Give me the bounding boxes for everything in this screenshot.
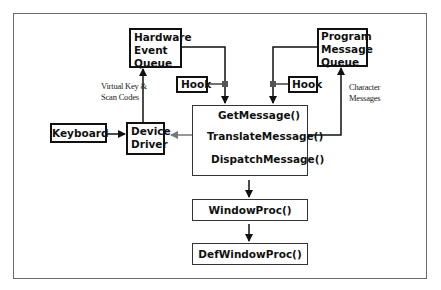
- keyboard-box: Keyboard: [50, 123, 107, 143]
- device-driver-line-2: Driver: [131, 138, 163, 151]
- get-message-label: GetMessage(): [218, 109, 300, 122]
- character-messages-line-2: Messages: [349, 93, 380, 104]
- dispatch-message-label: DispatchMessage(): [211, 153, 324, 166]
- hardware-event-queue-line-1: Hardware: [134, 31, 180, 44]
- hardware-event-queue-line-2: Event: [134, 44, 180, 57]
- window-proc-label: WindowProc(): [209, 204, 292, 216]
- virtual-key-line-1: Virtual Key &: [101, 81, 147, 92]
- def-window-proc-box: DefWindowProc(): [192, 243, 308, 265]
- program-message-queue-box: Program Message Queue: [317, 28, 368, 67]
- device-driver-box: Device Driver: [126, 122, 165, 155]
- def-window-proc-label: DefWindowProc(): [198, 248, 301, 260]
- virtual-key-annotation: Virtual Key & Scan Codes: [101, 81, 147, 103]
- hook-left-label: Hook: [181, 78, 211, 90]
- translate-message-label: TranslateMessage(): [207, 130, 323, 143]
- hardware-event-queue-box: Hardware Event Queue: [129, 28, 182, 68]
- device-driver-line-1: Device: [131, 125, 163, 138]
- virtual-key-line-2: Scan Codes: [101, 92, 147, 103]
- window-proc-box: WindowProc(): [192, 199, 308, 221]
- program-message-queue-line-1: Program: [321, 30, 366, 43]
- character-messages-annotation: Character Messages: [349, 82, 380, 104]
- hook-right-box: Hook: [288, 76, 318, 93]
- character-messages-line-1: Character: [349, 82, 380, 93]
- message-loop-box: GetMessage() TranslateMessage() Dispatch…: [192, 105, 308, 176]
- hook-left-box: Hook: [176, 76, 208, 93]
- program-message-queue-line-3: Queue: [321, 56, 366, 69]
- program-message-queue-line-2: Message: [321, 43, 366, 56]
- keyboard-label: Keyboard: [52, 127, 108, 139]
- hardware-event-queue-line-3: Queue: [134, 57, 180, 70]
- hook-right-label: Hook: [292, 78, 322, 90]
